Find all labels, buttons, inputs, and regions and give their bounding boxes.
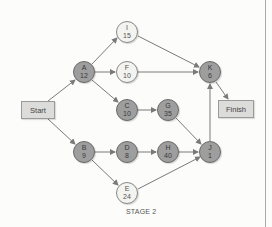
node-d-name: D	[124, 144, 129, 152]
node-g-name: G	[165, 102, 170, 110]
network-diagram: Start Finish I 15 A 12 F 10 K 6 C 10 G 3…	[0, 0, 272, 227]
node-b: B 9	[73, 141, 95, 163]
start-box: Start	[21, 101, 55, 119]
page-divider	[265, 0, 266, 227]
node-f: F 10	[116, 61, 138, 83]
node-h: H 40	[157, 141, 179, 163]
start-label: Start	[30, 106, 46, 115]
node-k-name: K	[208, 64, 213, 72]
node-c: C 10	[116, 99, 138, 121]
edge-g-j	[176, 118, 201, 144]
node-f-value: 10	[123, 72, 131, 80]
node-g-value: 35	[164, 110, 172, 118]
node-a-name: A	[82, 64, 87, 72]
node-j-name: J	[208, 144, 212, 152]
node-e-name: E	[125, 185, 130, 193]
node-a-value: 12	[80, 72, 88, 80]
edge-b-e	[92, 160, 118, 185]
node-h-value: 40	[164, 152, 172, 160]
node-d-value: 8	[125, 152, 129, 160]
node-b-name: B	[82, 144, 87, 152]
node-c-name: C	[124, 102, 129, 110]
node-b-value: 9	[82, 152, 86, 160]
stage-caption: STAGE 2	[126, 208, 156, 215]
node-g: G 35	[157, 99, 179, 121]
edge-start-a	[48, 80, 75, 101]
edge-start-b	[48, 119, 75, 144]
node-k-value: 6	[208, 72, 212, 80]
edge-a-i	[92, 38, 117, 64]
edge-k-finish	[216, 82, 228, 99]
node-f-name: F	[125, 64, 129, 72]
node-i: I 15	[116, 21, 138, 43]
edge-i-k	[138, 36, 199, 67]
node-c-value: 10	[123, 110, 131, 118]
node-h-name: H	[165, 144, 170, 152]
finish-box: Finish	[218, 100, 254, 118]
node-e-value: 24	[123, 193, 131, 201]
node-e: E 24	[116, 182, 138, 204]
node-j-value: 1	[208, 152, 212, 160]
node-i-name: I	[126, 24, 128, 32]
edge-a-c	[92, 80, 118, 102]
node-a: A 12	[73, 61, 95, 83]
node-j: J 1	[199, 141, 221, 163]
node-k: K 6	[199, 61, 221, 83]
node-d: D 8	[116, 141, 138, 163]
node-i-value: 15	[123, 32, 131, 40]
finish-label: Finish	[226, 105, 246, 114]
